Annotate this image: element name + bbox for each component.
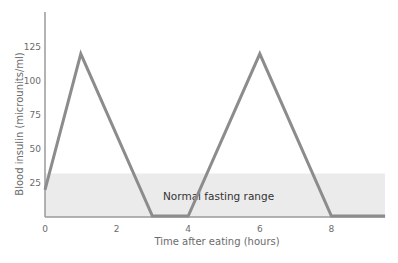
y-tick-label: 125 xyxy=(24,42,41,52)
fasting-range-label: Normal fasting range xyxy=(163,190,274,202)
x-axis-label: Time after eating (hours) xyxy=(153,236,279,247)
x-tick-label: 8 xyxy=(329,224,335,234)
x-tick-labels: 02468 xyxy=(42,224,334,234)
y-tick-label: 25 xyxy=(30,178,41,188)
x-tick-label: 6 xyxy=(257,224,263,234)
y-tick-label: 100 xyxy=(24,76,41,86)
x-tick-label: 0 xyxy=(42,224,48,234)
x-tick-label: 2 xyxy=(114,224,120,234)
insulin-chart: Normal fasting range 02468 255075100125 … xyxy=(0,0,398,263)
y-axis-label: Blood insulin (microunits/ml) xyxy=(14,52,25,196)
x-tick-label: 4 xyxy=(185,224,191,234)
y-tick-labels: 255075100125 xyxy=(24,42,41,188)
y-tick-label: 50 xyxy=(30,144,42,154)
y-tick-label: 75 xyxy=(30,110,41,120)
